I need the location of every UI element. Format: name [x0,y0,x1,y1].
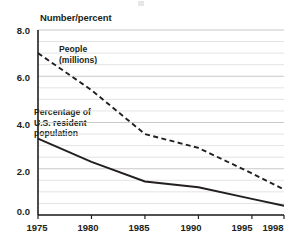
chart-figure: Number/percent 8.0 6.0 4.0 2.0 0.0 1975 … [0,0,293,240]
gridlines [38,30,284,215]
plot-area [0,0,293,240]
series-line-percentage [38,139,284,206]
